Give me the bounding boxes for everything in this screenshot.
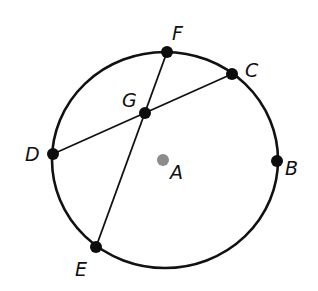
label-D: D [25,143,40,165]
label-F: F [172,22,184,44]
point-D [47,148,59,160]
point-C [226,68,238,80]
label-A: A [168,161,183,183]
center-point-A [157,154,169,166]
chord-FE [96,52,167,247]
point-F [161,46,173,58]
label-G: G [122,89,137,111]
point-B [271,155,283,167]
label-B: B [285,157,298,179]
point-E [90,241,102,253]
circle-diagram: F C G D B E A [0,0,318,291]
label-E: E [75,258,87,280]
point-G [139,107,151,119]
label-C: C [245,59,259,81]
